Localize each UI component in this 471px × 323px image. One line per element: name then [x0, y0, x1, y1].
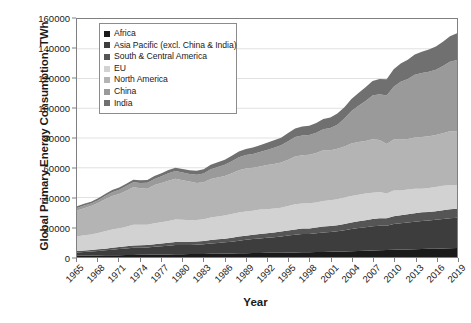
x-tick-mark [416, 258, 417, 262]
x-tick-mark [246, 258, 247, 262]
x-tick-mark [331, 258, 332, 262]
x-tick-mark [437, 258, 438, 262]
legend-swatch-icon [104, 42, 110, 48]
legend-item[interactable]: EU [104, 63, 231, 75]
legend-label: China [114, 86, 136, 98]
legend-swatch-icon [104, 89, 110, 95]
chart-container: Global Primary Energy Consumption, TWh Y… [0, 0, 471, 323]
legend-label: EU [114, 63, 126, 75]
legend-label: North America [114, 74, 168, 86]
x-tick-mark [140, 258, 141, 262]
legend-item[interactable]: North America [104, 74, 231, 86]
x-tick-mark [225, 258, 226, 262]
legend-swatch-icon [104, 31, 110, 37]
legend-item[interactable]: South & Central America [104, 51, 231, 63]
legend-swatch-icon [104, 77, 110, 83]
chart-legend: AfricaAsia Pacific (excl. China & India)… [99, 23, 237, 114]
legend-item[interactable]: China [104, 86, 231, 98]
legend-item[interactable]: Africa [104, 28, 231, 40]
legend-label: India [114, 98, 132, 110]
legend-label: Africa [114, 28, 136, 40]
legend-swatch-icon [104, 100, 110, 106]
legend-swatch-icon [104, 54, 110, 60]
legend-swatch-icon [104, 66, 110, 72]
legend-item[interactable]: Asia Pacific (excl. China & India) [104, 40, 231, 52]
legend-label: South & Central America [114, 51, 207, 63]
legend-label: Asia Pacific (excl. China & India) [114, 40, 236, 52]
legend-item[interactable]: India [104, 98, 231, 110]
